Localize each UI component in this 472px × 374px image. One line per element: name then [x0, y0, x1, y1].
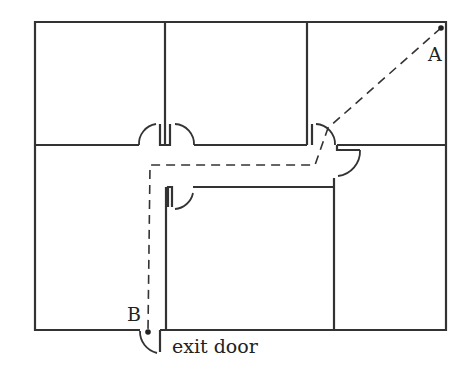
door-arc-1b: [175, 124, 194, 145]
label-exit-door: exit door: [172, 335, 259, 357]
label-a: A: [427, 43, 442, 65]
door-arc-4: [175, 193, 193, 209]
door-arc-1a: [139, 124, 156, 145]
evacuation-path: [148, 28, 441, 330]
point-a-marker: [438, 25, 444, 31]
door-jamb-4: [168, 187, 172, 207]
door-swings: [139, 124, 360, 353]
walls: [35, 22, 446, 352]
point-b-marker: [145, 329, 151, 335]
label-b: B: [127, 303, 141, 325]
door-arc-3: [338, 150, 360, 176]
floor-plan: A B exit door: [0, 0, 472, 374]
outer-wall: [35, 22, 446, 330]
